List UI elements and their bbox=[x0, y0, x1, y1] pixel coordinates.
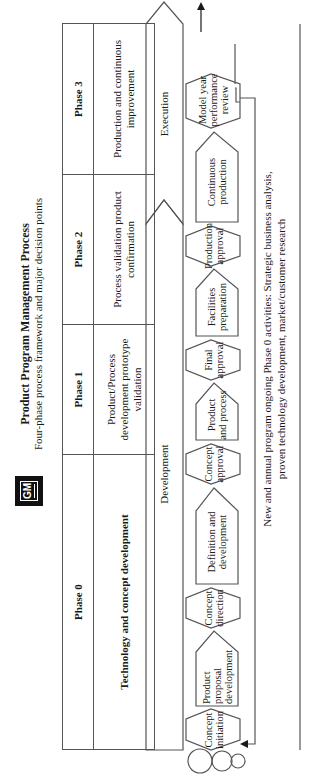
step-concept-approval: Concept approval bbox=[190, 442, 238, 486]
step-final-approval: Final approval bbox=[190, 338, 238, 382]
step-product-process: Product and process bbox=[196, 390, 238, 440]
start-circle-small bbox=[231, 754, 245, 768]
diagram-frame: GM Product Program Management Process Fo… bbox=[0, 0, 314, 774]
start-circle-medium bbox=[212, 751, 232, 771]
step-facilities-preparation: Facilities preparation bbox=[196, 278, 238, 336]
development-label: Development bbox=[158, 354, 170, 594]
step-production-approval: Production approval bbox=[190, 222, 238, 270]
step-continuous-production: Continuous production bbox=[196, 144, 238, 220]
execution-label: Execution bbox=[158, 34, 170, 194]
step-model-year-review: Model year performance review bbox=[186, 72, 240, 128]
step-definition-development: Definition and development bbox=[196, 502, 238, 582]
step-concept-direction: Concept direction bbox=[190, 586, 238, 630]
phase0-note-line1: New and annual program ongoing Phase 0 a… bbox=[260, 114, 274, 584]
start-circle-large bbox=[188, 749, 212, 773]
phase0-note-line2: proven technology development, market/cu… bbox=[274, 114, 288, 584]
step-product-proposal: Product proposal development bbox=[196, 634, 238, 704]
step-concept-initiation: Concept initiation bbox=[190, 708, 238, 752]
feedback-arrowhead bbox=[240, 740, 248, 748]
